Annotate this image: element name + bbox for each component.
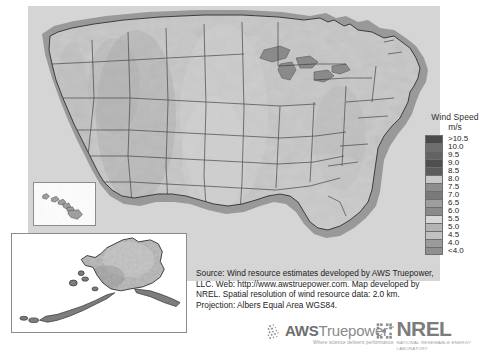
nrel-subtitle: NATIONAL RENEWABLE ENERGY LABORATORY: [397, 340, 487, 352]
legend-swatch: [425, 239, 443, 247]
legend-swatch: [425, 135, 443, 143]
nrel-emblem-icon: [375, 320, 394, 342]
map-area: [0, 0, 487, 310]
wind-speed-legend: Wind Speed m/s >10.510.09.59.08.58.07.57…: [425, 112, 485, 255]
legend-swatch: [425, 199, 443, 207]
hawaii-inset-graphic: [34, 183, 95, 225]
wind-resource-map-page: Wind Speed m/s >10.510.09.59.08.58.07.57…: [0, 0, 487, 355]
legend-swatch: [425, 223, 443, 231]
legend-units: m/s: [425, 122, 485, 132]
logo-bar: AWSTruepower™ Where science delivers per…: [265, 318, 487, 352]
source-line-2: LLC. Web: http://www.awstruepower.com. M…: [196, 279, 436, 290]
source-line-3: NREL. Spatial resolution of wind resourc…: [196, 289, 436, 300]
legend-swatch: [425, 231, 443, 239]
nrel-logo: NREL NATIONAL RENEWABLE ENERGY LABORATOR…: [375, 318, 487, 352]
source-note: Source: Wind resource estimates develope…: [196, 268, 436, 310]
legend-swatch: [425, 191, 443, 199]
legend-swatch: [425, 143, 443, 151]
legend-label: <4.0: [448, 247, 464, 255]
legend-swatch: [425, 167, 443, 175]
source-line-4: Projection: Albers Equal Area WGS84.: [196, 300, 436, 311]
legend-swatch: [425, 247, 443, 255]
legend-scale: >10.510.09.59.08.58.07.57.06.56.05.55.04…: [425, 135, 485, 255]
alaska-inset: [11, 233, 187, 333]
source-line-1: Source: Wind resource estimates develope…: [196, 268, 436, 279]
hawaii-inset: [33, 182, 96, 226]
nrel-name: NREL: [397, 318, 487, 340]
legend-entry: <4.0: [425, 247, 485, 255]
legend-swatch: [425, 159, 443, 167]
alaska-inset-graphic: [12, 234, 186, 332]
legend-title: Wind Speed: [425, 112, 485, 122]
nrel-wordmark: NREL NATIONAL RENEWABLE ENERGY LABORATOR…: [397, 318, 487, 352]
legend-swatch: [425, 175, 443, 183]
aws-sparkle-icon: [267, 323, 283, 341]
legend-swatch: [425, 215, 443, 223]
legend-swatch: [425, 151, 443, 159]
legend-swatch: [425, 207, 443, 215]
aws-name-bold: AWS: [285, 322, 319, 339]
legend-swatch: [425, 183, 443, 191]
